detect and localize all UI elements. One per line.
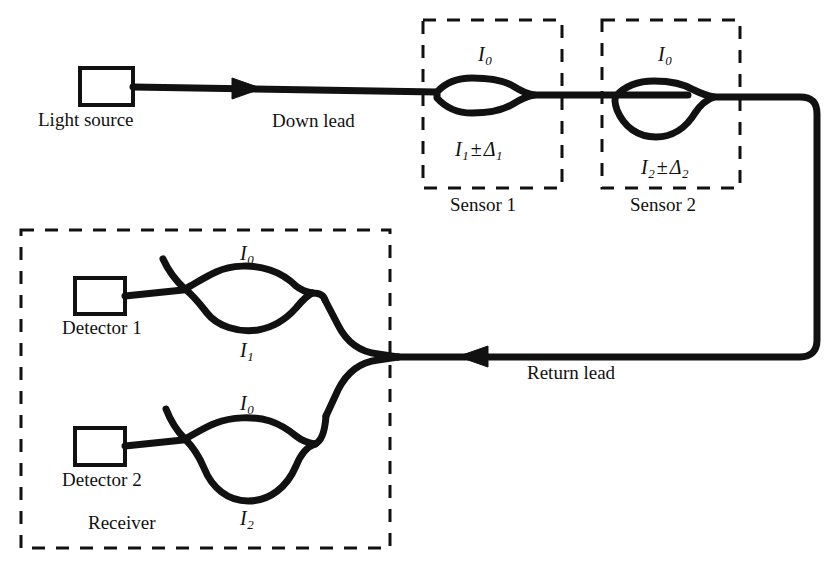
sensor-2-output-base: I <box>641 156 648 178</box>
sensor-2-input-base: I <box>658 43 665 65</box>
sensor-1-output-intensity-label: I1±Δ1 <box>455 139 502 162</box>
down-lead-arrow-icon <box>232 78 262 99</box>
receiver-loop-1-top-label: I0 <box>240 243 254 266</box>
sensor-2-caption: Sensor 2 <box>630 195 696 214</box>
sensor-1-input-base: I <box>478 43 485 65</box>
sensor-2-input-sub: 0 <box>665 53 672 68</box>
receiver-loop-1-top-base: I <box>240 242 247 264</box>
sensor-2-input-intensity-label: I0 <box>658 44 672 67</box>
receiver-loop-2-lower <box>185 439 315 501</box>
detector-2-caption: Detector 2 <box>62 470 142 489</box>
receiver-loop-2-bottom-label: I2 <box>240 508 254 531</box>
fiber-sensor-diagram: Light source Down lead Return lead I0 I1… <box>0 0 832 572</box>
receiver-merge-lower-arm <box>326 357 398 416</box>
sensor-2-delta: Δ <box>670 156 682 178</box>
down-lead-label: Down lead <box>272 111 355 130</box>
sensor-2-pm-sign: ± <box>657 156 668 178</box>
detector-2-box <box>75 428 125 465</box>
receiver-loop-1-lower <box>185 289 312 331</box>
detector-2-pigtail <box>125 440 183 446</box>
receiver-merge-upper-arm <box>325 300 398 357</box>
sensor-1-output-base: I <box>455 138 462 160</box>
sensor-1-delta: Δ <box>484 138 496 160</box>
detector-1-caption: Detector 1 <box>62 318 142 337</box>
sensor-1-fiber-loop <box>437 78 534 113</box>
return-lead-fiber <box>398 97 817 357</box>
receiver-loop-2-bottom-base: I <box>240 507 247 529</box>
sensor-2-output-intensity-label: I2±Δ2 <box>641 157 688 180</box>
receiver-loop-1-upper <box>185 266 312 293</box>
receiver-caption: Receiver <box>88 513 156 532</box>
sensor-1-input-intensity-label: I0 <box>478 44 492 67</box>
sensor-1-delta-sub: 1 <box>496 148 503 163</box>
coupler-2-stub <box>166 409 185 439</box>
sensor-2-output-sub: 2 <box>648 166 655 181</box>
sensor-1-pm-sign: ± <box>471 138 482 160</box>
light-source-box <box>80 68 133 105</box>
receiver-loop-1-bottom-label: I1 <box>240 340 254 363</box>
return-lead-arrow-icon <box>458 346 488 367</box>
receiver-loop-1-bottom-base: I <box>240 339 247 361</box>
sensor-1-input-sub: 0 <box>485 53 492 68</box>
receiver-loop-2-top-label: I0 <box>240 393 254 416</box>
receiver-loop-2-top-sub: 0 <box>247 402 254 417</box>
detector-1-box <box>75 278 125 314</box>
receiver-loop-2-bottom-sub: 2 <box>247 517 254 532</box>
receiver-loop-2-top-base: I <box>240 392 247 414</box>
down-lead-fiber <box>133 87 437 92</box>
receiver-loop-2-output <box>315 416 326 444</box>
light-source-label: Light source <box>38 110 134 129</box>
detector-1-pigtail <box>125 290 183 296</box>
sensor-1-caption: Sensor 1 <box>450 195 516 214</box>
sensor-2-fiber-loop <box>615 81 714 137</box>
return-lead-label: Return lead <box>527 363 615 382</box>
receiver-loop-1-top-sub: 0 <box>247 252 254 267</box>
sensor-1-output-sub: 1 <box>462 148 469 163</box>
receiver-loop-1-output <box>312 293 325 300</box>
sensor-2-delta-sub: 2 <box>682 166 689 181</box>
receiver-loop-2-upper <box>185 418 315 444</box>
coupler-1-stub <box>163 259 185 289</box>
receiver-loop-1-bottom-sub: 1 <box>247 349 254 364</box>
